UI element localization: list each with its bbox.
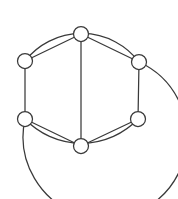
edge-arc-outer-right xyxy=(23,62,178,199)
graph-canvas xyxy=(0,0,178,199)
node-layer xyxy=(18,27,147,154)
edge-lower-right-to-bottom xyxy=(81,119,138,146)
graph-node-upper-right xyxy=(132,55,147,70)
edge-top-to-upper-right xyxy=(81,34,139,62)
graph-diagram-figure xyxy=(0,0,178,199)
graph-node-lower-left xyxy=(18,112,33,127)
graph-node-lower-right xyxy=(131,112,146,127)
edge-lower-left-to-bottom xyxy=(25,119,81,146)
graph-node-upper-left xyxy=(18,54,33,69)
edge-top-to-upper-left xyxy=(25,34,81,61)
graph-node-top xyxy=(74,27,89,42)
graph-node-bottom xyxy=(74,139,89,154)
edge-upper-right-to-lower-right xyxy=(138,62,139,119)
